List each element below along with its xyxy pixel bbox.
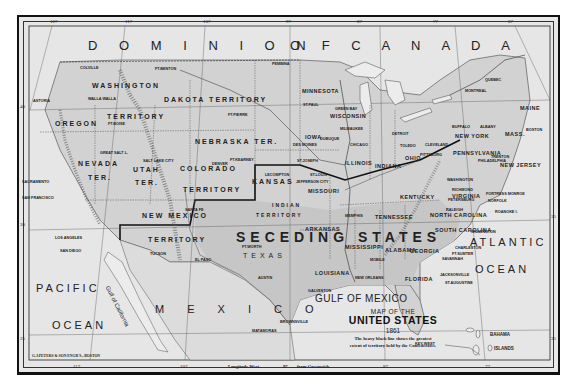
label-colorado-territory: TERRITORY	[183, 186, 241, 193]
city-great-salt-l: GREAT SALT L.	[100, 151, 128, 155]
label-kansas: KANSAS	[252, 178, 294, 185]
tick-top-117: 117	[125, 19, 132, 24]
label-colorado: COLORADO	[180, 165, 237, 172]
label-texas: TEXAS	[243, 252, 286, 259]
label-bahama: BAHAMA	[490, 332, 510, 337]
city-wilmington: WILMINGTON	[471, 230, 496, 234]
city-ft-kearney: FT.KEARNEY	[230, 158, 254, 162]
city-roanoke: ROANOKE I.	[495, 210, 518, 214]
tick-right-35: 35	[551, 214, 556, 219]
label-nevada: NEVADA	[78, 160, 119, 167]
legend-note-line1: The heavy black line shows the greatest	[322, 335, 464, 342]
tick-bottom-107: 107	[180, 364, 188, 369]
city-jacksonville: JACKSONVILLE	[440, 273, 469, 277]
city-raleigh: RALEIGH	[446, 208, 463, 212]
city-norfolk: NORFOLK	[488, 199, 507, 203]
label-new-mexico-territory: TERRITORY	[148, 236, 206, 243]
city-ft-boise: FT.BOISE	[108, 122, 125, 126]
city-pittsburg: PITTSBURG	[420, 153, 442, 157]
label-new-york: NEW YORK	[455, 133, 489, 139]
city-astoria: ASTORIA	[33, 99, 50, 103]
label-new-jersey: NEW JERSEY	[500, 162, 541, 168]
city-mobile: MOBILE	[370, 258, 385, 262]
label-florida: FLORIDA	[405, 276, 433, 282]
label-louisiana: LOUISIANA	[315, 270, 350, 276]
label-indian-territory: TERRITORY	[256, 212, 303, 218]
tick-left-40: 40	[20, 104, 25, 109]
city-el-paso: EL PASO	[195, 258, 211, 262]
city-tucson: TUCSON	[150, 252, 166, 256]
label-alabama: ALABAMA	[385, 247, 416, 253]
longitude-caption-prefix: Longitude West	[228, 364, 259, 369]
label-pacific: PACIFIC	[36, 282, 100, 294]
publisher-credit: G.J.PETERS & SON ENGR'S., BOSTON	[32, 354, 100, 358]
longitude-caption-suffix: from Greenwich	[297, 364, 329, 369]
city-milwaukee: MILWAUKEE	[340, 127, 363, 131]
city-lecompton: LECOMPTON	[265, 173, 289, 177]
city-salt-lake-city: SALT LAKE CITY	[143, 159, 174, 163]
tick-bottom-117: 117	[73, 364, 80, 369]
label-washington: WASHINGTON	[92, 82, 160, 89]
label-utah-ter: TER.	[135, 179, 159, 186]
label-kentucky: KENTUCKY	[400, 194, 435, 200]
label-indiana: INDIANA	[375, 163, 401, 169]
city-buffalo: BUFFALO	[452, 125, 470, 129]
city-des-moines: DES MOINES	[293, 143, 317, 147]
city-memphis: MEMPHIS	[345, 214, 363, 218]
tick-top-127: 127	[50, 19, 58, 24]
title-year: 1861	[322, 326, 464, 335]
label-utah: UTAH	[133, 166, 160, 173]
city-colville: COLVILLE	[80, 66, 99, 70]
label-minnesota: MINNESOTA	[302, 88, 339, 94]
map-title-block: MAP OF THE UNITED STATES 1861 The heavy …	[322, 308, 464, 349]
tick-top-77: 77	[433, 19, 438, 24]
tick-top-87: 87	[357, 19, 362, 24]
city-st-augustine: ST.AUGUSTINE	[445, 281, 473, 285]
label-gulf-of-mexico: GULF OF MEXICO	[315, 293, 408, 304]
city-st-louis: ST.LOUIS	[310, 173, 327, 177]
label-mississippi: MISSISSIPPI	[345, 244, 383, 250]
title-united-states: UNITED STATES	[322, 315, 464, 326]
city-st-joseph: ST.JOSEPH	[297, 159, 318, 163]
city-richmond: RICHMOND	[452, 188, 473, 192]
tick-top-107: 107	[203, 19, 211, 24]
city-santa-fe: SANTA FE	[185, 208, 204, 212]
label-tennessee: TENNESSEE	[375, 214, 413, 220]
tick-left-30: 30	[20, 222, 25, 227]
label-north-carolina: NORTH CAROLINA	[430, 212, 487, 218]
city-walla-walla: WALLA WALLA	[88, 97, 116, 101]
label-atlantic-ocean: OCEAN	[475, 263, 529, 275]
label-nebraska-ter: NEBRASKA TER.	[195, 138, 278, 145]
label-nevada-ter: TER.	[88, 174, 112, 181]
tick-right-25: 25	[551, 336, 556, 341]
tick-bottom-77: 77	[485, 364, 490, 369]
label-mass: MASS.	[505, 131, 525, 137]
label-wisconsin: WISCONSIN	[330, 113, 366, 119]
city-austin: AUSTIN	[258, 276, 272, 280]
label-dominion: D O M I N I O N	[88, 38, 315, 53]
city-jefferson-city: JEFFERSON CITY	[296, 180, 329, 184]
label-washington-territory: TERRITORY	[107, 113, 165, 120]
city-ft-benton: FT.BENTON	[155, 67, 176, 71]
tick-bottom-87: 87	[383, 364, 388, 369]
city-brownsville: BROWNSVILLE	[280, 320, 308, 324]
label-ohio: OHIO	[405, 155, 421, 161]
city-ft-worth: FT.WORTH	[242, 245, 262, 249]
label-new-mexico: NEW MEXICO	[142, 212, 208, 219]
city-st-paul: ST.PAUL	[303, 103, 319, 107]
city-washington: WASHINGTON	[447, 178, 473, 182]
city-chicago: CHICAGO	[350, 143, 368, 147]
city-pembina: PEMBINA	[272, 62, 290, 66]
city-detroit: DETROIT	[392, 132, 409, 136]
label-mexico: M E X I C O	[155, 303, 324, 315]
city-new-orleans: NEW ORLEANS	[355, 276, 383, 280]
city-trenton: TRENTON	[491, 155, 509, 159]
city-ft-sumter: FT.SUMTER	[452, 252, 473, 256]
city-green-bay: GREEN BAY	[335, 107, 357, 111]
label-missouri: MISSOURI	[308, 188, 339, 194]
city-san-francisco: SAN FRANCISCO	[22, 196, 54, 200]
label-pacific-ocean: OCEAN	[52, 319, 106, 331]
city-dubuque: DUBUQUE	[320, 137, 339, 141]
city-quebec: QUEBEC	[485, 78, 501, 82]
label-arkansas: ARKANSAS	[305, 226, 340, 232]
